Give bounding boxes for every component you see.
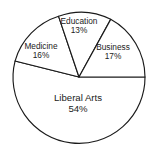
pie-chart-svg (0, 0, 149, 152)
pie-chart: Education 13% Business 17% Medicine 16% … (0, 0, 149, 152)
pie-slices (13, 12, 145, 143)
